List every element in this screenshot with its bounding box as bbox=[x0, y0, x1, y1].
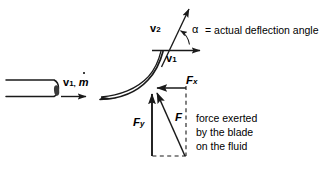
v2-label: v2 bbox=[150, 22, 161, 35]
inlet-v-subscript: 1, bbox=[69, 79, 76, 88]
fy-label: Fy bbox=[133, 116, 144, 130]
fx-label: Fx bbox=[186, 74, 197, 88]
alpha-angle-arc bbox=[181, 31, 190, 45]
alpha-symbol-label: α bbox=[192, 23, 198, 36]
f-resultant-label: F bbox=[175, 111, 182, 125]
alpha-description-label: = actual deflection angle bbox=[205, 24, 319, 36]
v2-subscript: 2 bbox=[156, 25, 160, 34]
force-caption-line-2: by the blade bbox=[196, 126, 253, 138]
force-caption-line-1: force exerted bbox=[196, 112, 257, 124]
mass-flow-letter: m bbox=[79, 76, 89, 88]
fy-symbol: F bbox=[133, 116, 140, 128]
mass-flow-dot-icon bbox=[83, 72, 85, 74]
force-caption-line-3: on the fluid bbox=[196, 140, 247, 152]
jet-blade-diagram: v1, m v2 v1 α = actual deflection angle … bbox=[0, 0, 327, 176]
v1-subscript: 1 bbox=[172, 55, 176, 64]
curved-blade bbox=[100, 51, 163, 100]
fx-symbol: F bbox=[186, 74, 193, 86]
mass-flow-symbol: m bbox=[79, 76, 89, 89]
v1-label: v1 bbox=[166, 52, 177, 65]
fx-subscript: x bbox=[193, 77, 197, 86]
inlet-velocity-massflow-label: v1, m bbox=[63, 76, 89, 89]
pipe-nozzle bbox=[6, 80, 60, 97]
fy-subscript: y bbox=[140, 119, 144, 128]
